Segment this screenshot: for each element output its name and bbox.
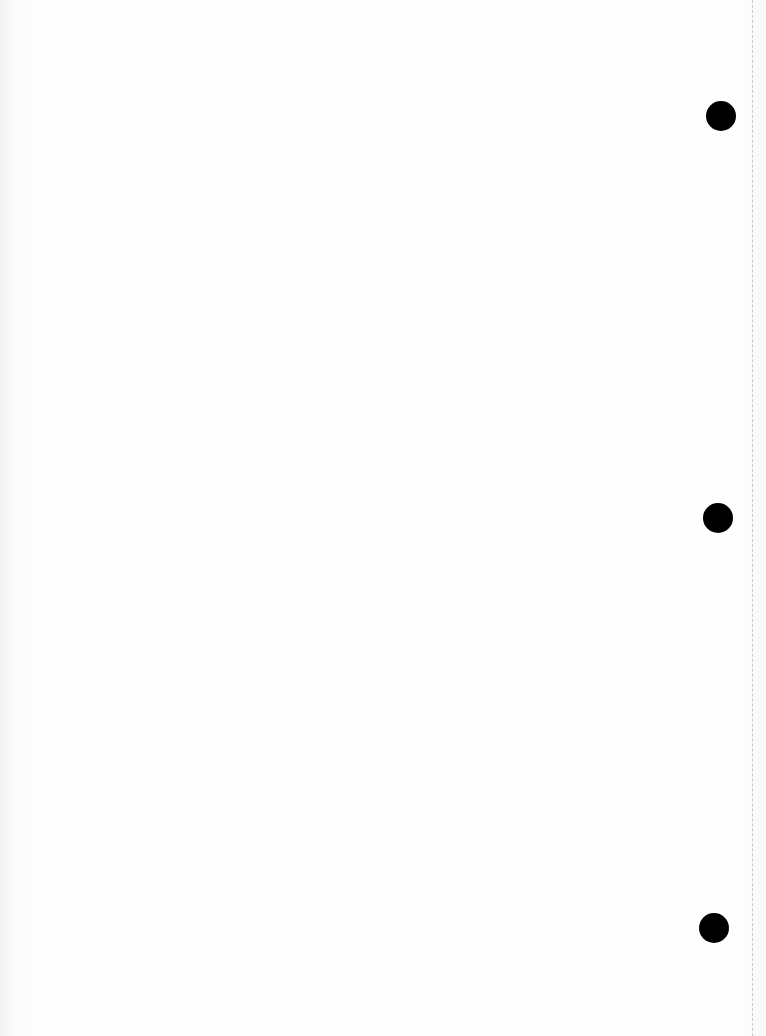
page-edge-perforation [752,0,753,1036]
binder-hole-top [706,101,736,131]
binder-hole-bottom [699,913,729,943]
scanned-page [0,0,766,1036]
bleed-through-text [60,25,63,37]
binder-hole-middle [703,503,733,533]
